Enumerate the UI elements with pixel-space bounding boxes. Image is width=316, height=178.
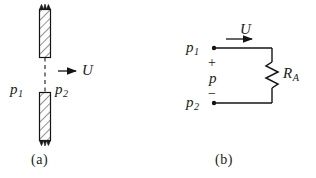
polarity-plus: + [208, 56, 216, 70]
label-p1-panel-a: p1 [10, 82, 23, 99]
label-p2-panel-a: p2 [55, 82, 68, 99]
node-dot-p1 [212, 46, 216, 50]
label-U-panel-a: U [82, 63, 93, 78]
label-U-panel-b: U [240, 22, 251, 37]
upper-wall [40, 4, 51, 57]
figure-container: p1 p2 U (a) p1 p2 U + p − RA (b) [0, 0, 316, 178]
node-dot-p2 [212, 101, 216, 105]
lower-wall [40, 93, 51, 146]
lower-wall-break-edge [40, 141, 51, 146]
label-p1-panel-b: p1 [186, 40, 199, 57]
resistor-zigzag-icon [266, 62, 278, 88]
caption-a: (a) [31, 153, 48, 167]
upper-wall-break-edge [40, 4, 51, 9]
caption-b: (b) [215, 153, 233, 167]
polarity-minus: − [208, 87, 216, 101]
label-resistor-RA: RA [283, 66, 299, 83]
label-p-potential: p [209, 71, 217, 86]
label-p2-panel-b: p2 [186, 95, 199, 112]
